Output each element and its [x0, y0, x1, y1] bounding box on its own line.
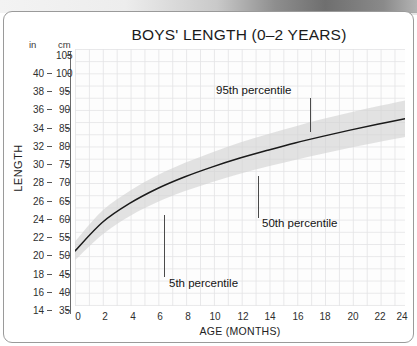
tick-label: 20	[26, 250, 44, 261]
y-axis-unit-inches: in	[29, 39, 36, 50]
x-axis-title: AGE (MONTHS)	[75, 325, 405, 337]
tick-mark	[66, 255, 70, 256]
tick-label: 0	[67, 311, 89, 322]
tick-mark	[66, 146, 70, 147]
tick-label: 26	[26, 196, 44, 207]
tick-mark	[66, 292, 70, 293]
tick-label: 22	[369, 311, 391, 322]
tick-label: 10	[204, 311, 226, 322]
tick-mark	[66, 164, 70, 165]
tick-label: 24	[26, 214, 44, 225]
tick-label: 12	[232, 311, 254, 322]
screenshot-page: BOYS' LENGTH (0–2 YEARS) in cm LENGTH 40…	[0, 0, 417, 346]
y-axis-unit-centimeters: cm	[58, 39, 71, 50]
tick-label: 34	[26, 123, 44, 134]
tick-mark	[66, 201, 70, 202]
tick-mark	[66, 55, 70, 56]
growth-chart-card: BOYS' LENGTH (0–2 YEARS) in cm LENGTH 40…	[3, 11, 414, 343]
tick-mark	[47, 73, 52, 74]
tick-mark	[47, 164, 52, 165]
tick-label: 4	[122, 311, 144, 322]
tick-label: 30	[26, 159, 44, 170]
tick-mark	[47, 255, 52, 256]
tick-label: 18	[314, 311, 336, 322]
leader-line-50th	[258, 176, 259, 218]
percentile-band	[75, 100, 405, 260]
tick-mark	[47, 201, 52, 202]
tick-mark	[47, 219, 52, 220]
tick-mark	[47, 274, 52, 275]
tick-label: 6	[149, 311, 171, 322]
tick-label: 38	[26, 86, 44, 97]
annotation-50th-percentile: 50th percentile	[262, 217, 337, 229]
tick-mark	[66, 73, 70, 74]
tick-label: 14	[26, 305, 44, 316]
tick-mark	[66, 274, 70, 275]
tick-mark	[47, 91, 52, 92]
tick-mark	[47, 310, 52, 311]
leader-line-5th	[164, 215, 165, 277]
tick-mark	[66, 237, 70, 238]
tick-mark	[47, 237, 52, 238]
chart-title: BOYS' LENGTH (0–2 YEARS)	[74, 26, 404, 44]
tick-mark	[47, 182, 52, 183]
tick-mark	[66, 109, 70, 110]
tick-label: 2	[94, 311, 116, 322]
tick-label: 20	[342, 311, 364, 322]
tick-mark	[66, 128, 70, 129]
tick-label: 8	[177, 311, 199, 322]
tick-label: 16	[26, 287, 44, 298]
tick-label: 28	[26, 177, 44, 188]
annotation-95th-percentile: 95th percentile	[216, 84, 291, 96]
tick-mark	[66, 91, 70, 92]
tick-label: 36	[26, 104, 44, 115]
tick-mark	[66, 182, 70, 183]
tick-mark	[47, 292, 52, 293]
tick-label: 40	[26, 68, 44, 79]
tick-label: 24	[391, 311, 413, 322]
tick-mark	[66, 219, 70, 220]
y-axis-title: LENGTH	[12, 138, 24, 198]
leader-line-95th	[310, 98, 311, 132]
tick-mark	[47, 146, 52, 147]
tick-label: 14	[259, 311, 281, 322]
tick-label: 22	[26, 232, 44, 243]
tick-label: 32	[26, 141, 44, 152]
annotation-5th-percentile: 5th percentile	[169, 277, 238, 289]
tick-label: 18	[26, 269, 44, 280]
tick-mark	[47, 128, 52, 129]
tick-mark	[47, 109, 52, 110]
tick-label: 16	[287, 311, 309, 322]
